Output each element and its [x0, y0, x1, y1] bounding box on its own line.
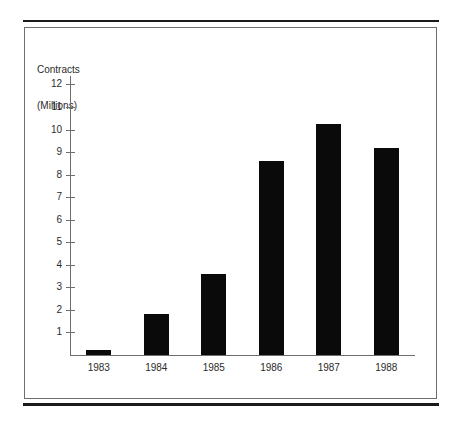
y-tick-6	[66, 220, 75, 221]
y-tick-8	[66, 175, 75, 176]
y-tick-label-3: 3	[36, 282, 62, 292]
x-axis-line	[70, 355, 415, 356]
bottom-rule	[23, 403, 439, 406]
bar-1983	[86, 350, 111, 355]
y-tick-4	[66, 265, 75, 266]
bar-1986	[259, 161, 284, 355]
y-tick-5	[66, 242, 75, 243]
y-tick-label-12: 12	[36, 79, 62, 89]
bar-1985	[201, 274, 226, 355]
bar-chart-figure: Contracts (Millions) 121110987654321 198…	[0, 0, 462, 430]
x-axis-label-1984: 1984	[132, 362, 180, 373]
x-axis-label-1986: 1986	[247, 362, 295, 373]
y-tick-2	[66, 310, 75, 311]
y-tick-label-2: 2	[36, 305, 62, 315]
y-tick-label-9: 9	[36, 147, 62, 157]
x-axis-label-1983: 1983	[75, 362, 123, 373]
y-axis-title-line1: Contracts	[37, 64, 80, 76]
y-tick-1	[66, 332, 75, 333]
bar-1988	[374, 148, 399, 355]
x-axis-label-1985: 1985	[190, 362, 238, 373]
top-rule	[23, 20, 439, 22]
y-tick-label-8: 8	[36, 170, 62, 180]
y-tick-10	[66, 130, 75, 131]
y-tick-12	[66, 84, 75, 85]
bar-1987	[316, 124, 341, 355]
y-tick-9	[66, 152, 75, 153]
bar-1984	[144, 314, 169, 355]
y-tick-label-4: 4	[36, 260, 62, 270]
y-tick-label-10: 10	[36, 125, 62, 135]
y-tick-label-11: 11	[36, 102, 62, 112]
y-tick-label-1: 1	[36, 327, 62, 337]
x-axis-label-1988: 1988	[362, 362, 410, 373]
y-tick-11	[66, 107, 75, 108]
y-tick-3	[66, 287, 75, 288]
y-tick-label-7: 7	[36, 192, 62, 202]
y-tick-7	[66, 197, 75, 198]
y-axis-line	[70, 76, 71, 356]
y-tick-label-6: 6	[36, 215, 62, 225]
x-axis-label-1987: 1987	[305, 362, 353, 373]
y-tick-label-5: 5	[36, 237, 62, 247]
